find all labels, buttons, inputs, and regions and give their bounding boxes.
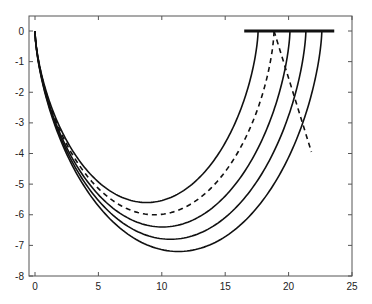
y-tick-label: -5 <box>15 179 24 190</box>
cycloid-chart: 05101520250-1-2-3-4-5-6-7-8 <box>0 0 372 304</box>
y-tick-label: -4 <box>15 148 24 159</box>
x-tick-label: 5 <box>96 281 102 292</box>
y-tick-label: -1 <box>15 56 24 67</box>
y-tick-label: 0 <box>18 26 24 37</box>
y-tick-label: -8 <box>15 271 24 282</box>
x-tick-label: 0 <box>32 281 38 292</box>
x-tick-label: 15 <box>220 281 232 292</box>
y-tick-label: -2 <box>15 87 24 98</box>
y-tick-label: -7 <box>15 240 24 251</box>
y-tick-label: -6 <box>15 209 24 220</box>
x-tick-label: 10 <box>156 281 168 292</box>
chart-container: 05101520250-1-2-3-4-5-6-7-8 <box>0 0 372 304</box>
x-tick-label: 20 <box>283 281 295 292</box>
x-tick-label: 25 <box>346 281 358 292</box>
y-tick-label: -3 <box>15 117 24 128</box>
